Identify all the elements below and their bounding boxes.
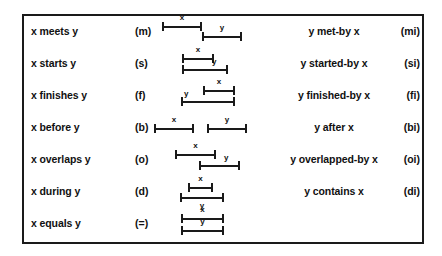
interval-label-x: x <box>175 142 216 150</box>
interval-tick-right <box>226 65 228 74</box>
interval-tick-right <box>214 150 216 159</box>
interval-x-overlaps: x <box>175 150 216 159</box>
diagram-equals: x y <box>154 208 266 240</box>
left-label-overlaps: x overlaps y <box>31 153 135 165</box>
diagram-meets: x y <box>154 16 266 48</box>
interval-label-x: x <box>162 14 202 22</box>
right-code-met-by: (mi) <box>392 25 420 37</box>
diagram-before: x y <box>154 112 266 144</box>
interval-y-meets: y <box>202 32 242 41</box>
interval-y-before: y <box>207 124 247 133</box>
interval-label-y: y <box>181 218 224 226</box>
right-code-after: (bi) <box>392 121 420 133</box>
relation-row-meets: x meets y (m) x y y met-by x (mi) <box>24 16 422 48</box>
interval-tick-right <box>233 86 235 95</box>
interval-y-equals: y <box>181 226 224 235</box>
diagram-starts: x y <box>154 48 266 80</box>
left-label-meets: x meets y <box>31 25 135 37</box>
relation-row-overlaps: x overlaps y (o) x y y overlapped-by x (… <box>24 144 422 176</box>
interval-tick-right <box>245 124 247 133</box>
relation-row-during: x during y (d) x y y contains x (di) <box>24 176 422 208</box>
diagram-finishes: x y <box>154 80 266 112</box>
right-label-after: y after x <box>269 121 399 133</box>
interval-y-during: y <box>180 193 224 202</box>
interval-x-during: x <box>188 183 213 192</box>
interval-bar <box>182 58 214 60</box>
interval-label-y: y <box>224 154 234 162</box>
interval-x-meets: x <box>162 22 202 31</box>
right-code-finished-by: (fi) <box>392 89 420 101</box>
right-label-finished-by: y finished-by x <box>269 89 399 101</box>
interval-label-y: y <box>212 58 222 66</box>
interval-bar <box>180 197 224 199</box>
right-code-overlapped-by: (oi) <box>392 153 420 165</box>
interval-label-y: y <box>202 24 242 32</box>
interval-bar <box>181 101 235 103</box>
interval-bar <box>199 165 240 167</box>
interval-tick-right <box>222 226 224 235</box>
interval-label-x: x <box>182 46 214 54</box>
allen-interval-relations-figure: { "figure": { "title": "Allen's thirteen… <box>0 0 442 256</box>
interval-bar <box>154 128 194 130</box>
interval-bar <box>175 154 216 156</box>
interval-bar <box>202 36 242 38</box>
left-label-equals: x equals y <box>31 217 135 229</box>
interval-x-finishes: x <box>203 86 235 95</box>
interval-label-x: x <box>154 116 194 124</box>
left-label-starts: x starts y <box>31 57 135 69</box>
interval-label-y: y <box>184 90 194 98</box>
interval-tick-right <box>240 32 242 41</box>
right-code-started-by: (si) <box>392 57 420 69</box>
right-label-overlapped-by: y overlapped-by x <box>269 153 399 165</box>
diagram-overlaps: x y <box>154 144 266 176</box>
interval-y-finishes: y <box>181 97 235 106</box>
interval-bar <box>203 90 235 92</box>
left-label-during: x during y <box>31 185 135 197</box>
left-label-finishes: x finishes y <box>31 89 135 101</box>
diagram-during: x y <box>154 176 266 208</box>
interval-y-overlaps: y <box>199 161 240 170</box>
interval-bar <box>162 26 202 28</box>
interval-tick-right <box>238 161 240 170</box>
interval-y-starts: y <box>182 65 228 74</box>
right-label-met-by: y met-by x <box>269 25 399 37</box>
interval-label-x: x <box>188 175 213 183</box>
left-label-before: x before y <box>31 121 135 133</box>
relation-row-before: x before y (b) x y y after x (bi) <box>24 112 422 144</box>
interval-x-starts: x <box>182 54 214 63</box>
interval-x-before: x <box>154 124 194 133</box>
relations-frame: x meets y (m) x y y met-by x (mi) x star… <box>22 14 424 244</box>
relation-row-equals: x equals y (=) x y <box>24 208 422 240</box>
relation-row-starts: x starts y (s) x y y started-by x (si) <box>24 48 422 80</box>
interval-bar <box>188 187 213 189</box>
interval-label-x: x <box>203 78 235 86</box>
right-label-contains: y contains x <box>269 185 399 197</box>
right-label-started-by: y started-by x <box>269 57 399 69</box>
interval-bar <box>207 128 247 130</box>
interval-bar <box>182 69 228 71</box>
interval-tick-right <box>233 97 235 106</box>
relation-row-finishes: x finishes y (f) x y y finished-by x (fi… <box>24 80 422 112</box>
interval-tick-right <box>192 124 194 133</box>
interval-label-y: y <box>207 116 247 124</box>
interval-label-x: x <box>181 206 224 214</box>
interval-tick-right <box>222 193 224 202</box>
interval-tick-right <box>211 183 213 192</box>
interval-bar <box>181 230 224 232</box>
right-code-contains: (di) <box>392 185 420 197</box>
